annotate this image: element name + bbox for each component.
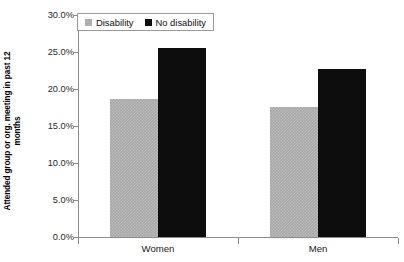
y-axis-title-line1: Attended group or org. meeting in past 1… <box>3 52 12 211</box>
chart-legend: DisabilityNo disability <box>77 13 214 31</box>
legend-label: Disability <box>96 17 134 28</box>
x-tick-mark <box>238 238 239 244</box>
y-axis-title: Attended group or org. meeting in past 1… <box>0 0 26 262</box>
x-tick-mark <box>398 238 399 244</box>
y-tick-label: 10.0% <box>30 158 74 168</box>
bar-chart: Attended group or org. meeting in past 1… <box>0 0 404 262</box>
black-square-icon <box>145 19 152 26</box>
bar-men-no-disability <box>318 69 366 237</box>
bar-women-no-disability <box>158 48 206 237</box>
y-tick-label: 5.0% <box>30 195 74 205</box>
bar-men-disability <box>270 107 318 237</box>
legend-entry-disability[interactable]: Disability <box>85 17 134 28</box>
y-tick-label: 0.0% <box>30 232 74 242</box>
x-tick-mark <box>78 238 79 244</box>
y-tick-label: 20.0% <box>30 84 74 94</box>
y-tick-label: 25.0% <box>30 47 74 57</box>
x-category-label-women: Women <box>142 243 175 254</box>
y-tick-label: 15.0% <box>30 121 74 131</box>
legend-label: No disability <box>156 17 207 28</box>
bar-women-disability <box>110 99 158 237</box>
gray-square-icon <box>85 19 92 26</box>
y-tick-label: 30.0% <box>30 10 74 20</box>
y-axis-title-line2: months <box>13 52 23 211</box>
x-category-label-men: Men <box>309 243 328 254</box>
plot-area <box>78 15 396 237</box>
legend-entry-no-disability[interactable]: No disability <box>145 17 207 28</box>
